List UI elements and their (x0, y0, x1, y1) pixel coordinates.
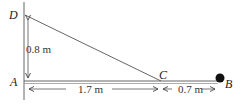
label-D: D (8, 8, 18, 22)
dimension-CB-label: 0.7 m (178, 83, 204, 95)
ball-B (216, 74, 225, 83)
diagram-canvas: 0.8 m 1.7 m 0.7 m D A C B (0, 0, 243, 111)
label-C: C (159, 68, 168, 82)
dimension-AD-label: 0.8 m (26, 43, 52, 55)
label-B: B (225, 77, 233, 91)
dimension-AC-label: 1.7 m (78, 83, 104, 95)
label-A: A (9, 75, 18, 89)
